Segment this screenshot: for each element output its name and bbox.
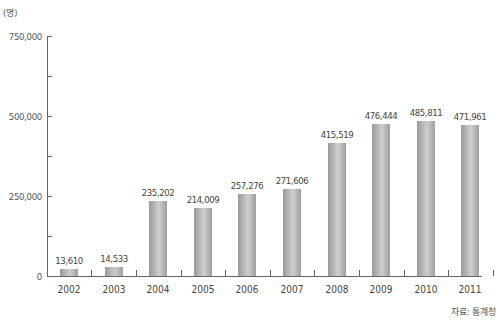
y-tick-label: 500,000 xyxy=(0,111,42,122)
x-tick xyxy=(493,270,494,276)
x-axis-line xyxy=(47,276,482,277)
bar-2005 xyxy=(194,208,212,276)
y-tick-label: 750,000 xyxy=(0,31,42,42)
x-tick xyxy=(91,270,92,276)
x-tick-label: 2004 xyxy=(133,284,183,295)
value-label: 415,519 xyxy=(307,129,367,140)
value-label: 471,961 xyxy=(440,111,500,122)
x-tick xyxy=(448,270,449,276)
bar-2008 xyxy=(328,143,346,276)
x-tick xyxy=(359,270,360,276)
y-tick xyxy=(47,156,52,157)
x-tick-label: 2009 xyxy=(356,284,406,295)
source-note: 자료: 통계청 xyxy=(451,305,496,318)
value-label: 214,009 xyxy=(173,194,233,205)
x-tick xyxy=(270,270,271,276)
x-tick xyxy=(136,270,137,276)
x-tick xyxy=(181,270,182,276)
x-tick xyxy=(404,270,405,276)
x-tick xyxy=(314,270,315,276)
value-label: 14,533 xyxy=(84,253,144,264)
bar-2004 xyxy=(149,201,167,276)
bar-2011 xyxy=(461,125,479,276)
x-tick-label: 2011 xyxy=(445,284,495,295)
y-tick xyxy=(47,236,52,237)
bar-2009 xyxy=(372,124,390,276)
x-tick-label: 2010 xyxy=(401,284,451,295)
x-tick xyxy=(225,270,226,276)
y-tick-label: 0 xyxy=(0,271,42,282)
y-tick xyxy=(47,276,52,277)
y-axis-unit: (명) xyxy=(3,6,17,19)
x-tick-label: 2005 xyxy=(178,284,228,295)
bar-2006 xyxy=(238,194,256,276)
y-tick xyxy=(47,76,52,77)
x-tick-label: 2003 xyxy=(89,284,139,295)
bar-2003 xyxy=(105,267,123,276)
x-tick-label: 2006 xyxy=(222,284,272,295)
x-tick-label: 2002 xyxy=(44,284,94,295)
y-tick xyxy=(47,196,52,197)
bar-2010 xyxy=(417,121,435,276)
y-tick-label: 250,000 xyxy=(0,191,42,202)
bar-2007 xyxy=(283,189,301,276)
y-tick xyxy=(47,36,52,37)
x-tick-label: 2008 xyxy=(312,284,362,295)
value-label: 271,606 xyxy=(262,175,322,186)
y-tick xyxy=(47,116,52,117)
bar-2002 xyxy=(60,269,78,276)
x-tick-label: 2007 xyxy=(267,284,317,295)
